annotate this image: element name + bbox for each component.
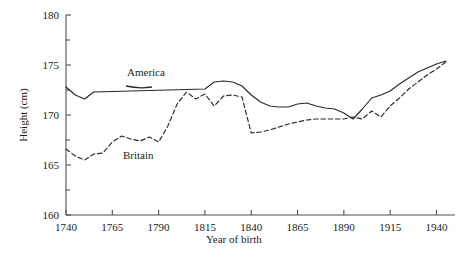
series-line-britain — [66, 62, 446, 160]
y-tick-label: 160 — [43, 209, 60, 221]
x-tick-label: 1765 — [101, 221, 124, 233]
america-legend-swatch — [126, 86, 152, 88]
x-tick-label: 1890 — [333, 221, 356, 233]
y-axis-title: Height (cm) — [17, 88, 30, 142]
series-line-america — [66, 61, 446, 119]
x-tick-label: 1940 — [425, 221, 448, 233]
x-axis-title: Year of birth — [206, 233, 262, 245]
y-tick-label: 175 — [43, 59, 60, 71]
y-tick-label: 180 — [43, 9, 60, 21]
y-axis-major-ticks — [66, 15, 71, 215]
y-axis-tick-labels: 160165170175180 — [43, 9, 60, 221]
x-tick-label: 1840 — [240, 221, 263, 233]
chart-plot-area: 160165170175180 174017651790181518401865… — [0, 0, 467, 258]
x-tick-label: 1790 — [148, 221, 171, 233]
x-tick-label: 1815 — [194, 221, 217, 233]
x-tick-label: 1865 — [287, 221, 310, 233]
y-tick-label: 165 — [43, 159, 60, 171]
x-axis-major-ticks — [66, 210, 436, 215]
x-tick-label: 1915 — [379, 221, 402, 233]
series-label-america: America — [127, 66, 165, 78]
y-tick-label: 170 — [43, 109, 60, 121]
x-tick-label: 1740 — [55, 221, 78, 233]
height-by-year-of-birth-chart: 160165170175180 174017651790181518401865… — [0, 0, 467, 258]
series-label-britain: Britain — [123, 149, 154, 161]
x-axis-tick-labels: 174017651790181518401865189019151940 — [55, 221, 448, 233]
